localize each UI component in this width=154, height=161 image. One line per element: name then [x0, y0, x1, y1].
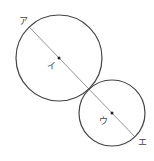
- diagram-canvas: ア イ ウ エ: [0, 0, 154, 161]
- label-a: ア: [19, 16, 28, 26]
- label-i: イ: [47, 61, 56, 71]
- large-circle-center-dot: [58, 57, 61, 60]
- diameter-line-a-to-e: [29, 27, 135, 137]
- label-u: ウ: [99, 116, 108, 126]
- small-circle-center-dot: [111, 112, 114, 115]
- label-e: エ: [138, 137, 147, 147]
